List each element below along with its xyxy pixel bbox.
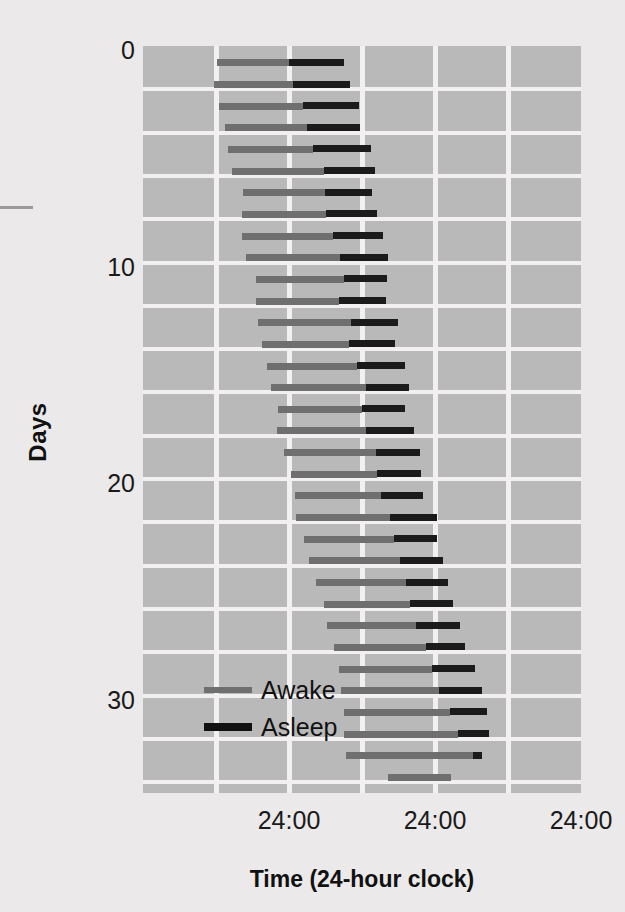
legend-label-awake: Awake [261, 673, 336, 708]
legend-item-asleep: Asleep [204, 710, 404, 747]
awake-bar [232, 168, 324, 175]
asleep-bar [400, 557, 443, 564]
asleep-bar [426, 643, 466, 650]
horizontal-gridline [143, 174, 581, 178]
awake-bar [284, 449, 376, 456]
asleep-bar [289, 59, 344, 66]
y-tick-label: 10 [75, 255, 135, 280]
awake-bar [291, 471, 377, 478]
awake-bar [339, 666, 432, 673]
awake-bar [271, 384, 365, 391]
asleep-bar [381, 492, 423, 499]
asleep-bar [377, 470, 421, 477]
actogram-figure: Days 0102030 Awake Asleep 24:0024:0024:0… [0, 0, 625, 912]
legend: Awake Asleep [204, 673, 404, 747]
awake-bar [309, 557, 400, 564]
awake-bar [324, 601, 410, 608]
awake-bar [267, 363, 357, 370]
x-axis-label: Time (24-hour clock) [143, 866, 581, 893]
horizontal-gridline [143, 304, 581, 308]
awake-bar [304, 536, 394, 543]
legend-swatch-awake [204, 687, 252, 693]
awake-bar [214, 81, 293, 88]
x-tick-label: 24:00 [521, 806, 625, 835]
x-tick-label: 24:00 [229, 806, 349, 835]
awake-bar [256, 276, 344, 283]
awake-bar [242, 233, 333, 240]
asleep-bar [349, 340, 395, 347]
asleep-bar [473, 752, 482, 759]
asleep-bar [416, 622, 460, 629]
awake-bar [295, 492, 381, 499]
horizontal-gridline [143, 347, 581, 351]
legend-item-awake: Awake [204, 673, 404, 710]
asleep-bar [351, 319, 398, 326]
awake-bar [388, 774, 451, 781]
asleep-bar [324, 167, 375, 174]
asleep-bar [410, 600, 453, 607]
asleep-bar [313, 145, 371, 152]
asleep-bar [439, 687, 482, 694]
horizontal-gridline [143, 261, 581, 265]
asleep-bar [406, 579, 448, 586]
plot-area: Awake Asleep [143, 46, 581, 793]
awake-bar [262, 341, 349, 348]
vertical-gridline [433, 46, 438, 793]
asleep-bar [376, 449, 420, 456]
awake-bar [256, 298, 339, 305]
asleep-bar [303, 102, 359, 109]
awake-bar [296, 514, 390, 521]
awake-bar [242, 211, 327, 218]
asleep-bar [339, 297, 386, 304]
awake-bar [243, 189, 325, 196]
asleep-bar [390, 514, 437, 521]
asleep-bar [362, 405, 405, 412]
asleep-bar [458, 730, 488, 737]
asleep-bar [333, 232, 383, 239]
awake-bar [278, 406, 362, 413]
y-tick-label: 20 [75, 471, 135, 496]
horizontal-gridline [143, 131, 581, 135]
awake-bar [316, 579, 405, 586]
awake-bar [258, 319, 351, 326]
asleep-bar [307, 124, 359, 131]
awake-bar [217, 59, 289, 66]
horizontal-gridline [143, 87, 581, 91]
awake-bar [246, 254, 340, 261]
awake-bar [327, 622, 415, 629]
awake-bar [228, 146, 314, 153]
asleep-bar [357, 362, 404, 369]
awake-bar [219, 103, 303, 110]
vertical-gridline [506, 46, 511, 793]
legend-label-asleep: Asleep [261, 710, 337, 745]
asleep-bar [293, 81, 350, 88]
asleep-bar [450, 708, 487, 715]
asleep-bar [366, 384, 409, 391]
asleep-bar [340, 254, 387, 261]
asleep-bar [325, 189, 372, 196]
y-axis-label: Days [24, 372, 52, 492]
awake-bar [225, 124, 307, 131]
page-edge-artifact [0, 206, 33, 209]
y-tick-label: 0 [75, 38, 135, 63]
legend-swatch-asleep [204, 723, 252, 731]
asleep-bar [394, 535, 437, 542]
asleep-bar [366, 427, 415, 434]
y-axis-ticks: 0102030 [60, 0, 135, 912]
awake-bar [346, 752, 473, 759]
awake-bar [277, 427, 365, 434]
x-tick-label: 24:00 [375, 806, 495, 835]
asleep-bar [344, 275, 387, 282]
y-tick-label: 30 [75, 688, 135, 713]
asleep-bar [326, 210, 376, 217]
awake-bar [334, 644, 426, 651]
horizontal-gridline [143, 780, 581, 784]
horizontal-gridline [143, 217, 581, 221]
asleep-bar [432, 665, 475, 672]
